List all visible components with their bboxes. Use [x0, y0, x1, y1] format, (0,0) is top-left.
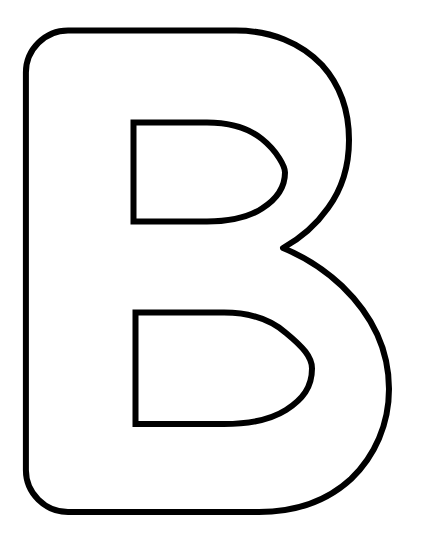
render-background [0, 0, 421, 545]
artwork-canvas: Bubble-style uppercase letter B rendered… [0, 0, 421, 545]
letter-b-render [0, 0, 421, 545]
